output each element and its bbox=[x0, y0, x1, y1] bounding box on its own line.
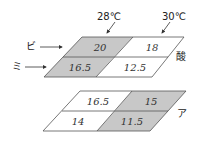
row-label-bi: ビ bbox=[26, 41, 36, 52]
temperature-grid-diagram: 28℃ 30℃ ビ ミ 20 18 16.5 12.5 酸 16.5 15 14… bbox=[0, 0, 198, 143]
panel-label-a: ア bbox=[177, 108, 187, 119]
value-a-mi-30: 11.5 bbox=[121, 116, 143, 127]
value-a-bi-28: 16.5 bbox=[87, 96, 109, 107]
arrow-28-icon bbox=[107, 22, 115, 33]
panel-acid: 20 18 16.5 12.5 酸 bbox=[44, 37, 186, 77]
row-label-mi: ミ bbox=[12, 61, 22, 72]
temp-label-28: 28℃ bbox=[97, 11, 121, 22]
value-acid-mi-30: 12.5 bbox=[124, 62, 146, 73]
panel-a: 16.5 15 14 11.5 ア bbox=[43, 91, 187, 131]
value-acid-bi-30: 18 bbox=[146, 42, 159, 53]
arrow-30-icon bbox=[162, 22, 170, 33]
temp-label-30: 30℃ bbox=[162, 11, 186, 22]
value-acid-bi-28: 20 bbox=[93, 42, 107, 53]
value-a-bi-30: 15 bbox=[145, 96, 158, 107]
value-acid-mi-28: 16.5 bbox=[69, 62, 91, 73]
panel-label-acid: 酸 bbox=[176, 50, 186, 62]
value-a-mi-28: 14 bbox=[72, 116, 85, 127]
